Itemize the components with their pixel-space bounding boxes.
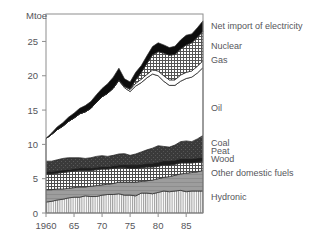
legend-labels: Net import of electricityNuclearGasOilCo… [211,21,303,202]
plot-area [46,14,203,213]
legend-label-other-domestic-fuels: Other domestic fuels [211,168,294,178]
y-tick-label: 25 [27,36,38,47]
legend-label-oil: Oil [211,103,222,113]
x-axis: 19606570758085 [35,213,191,231]
x-tick-label: 75 [125,220,136,231]
y-tick-label: 10 [27,139,38,150]
legend-label-net-import-of-electricity: Net import of electricity [211,21,303,31]
legend-label-wood: Wood [211,154,234,164]
energy-supply-area-chart: 0510152025 19606570758085 Net import of … [0,0,322,250]
x-tick-label: 70 [97,220,108,231]
y-axis: 0510152025 [27,36,46,219]
legend-label-hydronic: Hydronic [211,192,247,202]
legend-label-nuclear: Nuclear [211,41,242,51]
y-axis-unit-label: Mtoe [26,10,47,21]
x-tick-label: 85 [181,220,192,231]
y-tick-label: 0 [33,208,38,219]
x-tick-label: 65 [69,220,80,231]
legend-label-gas: Gas [211,55,228,65]
x-tick-label: 1960 [35,220,56,231]
chart-svg: 0510152025 19606570758085 Net import of … [0,0,322,250]
y-tick-label: 20 [27,70,38,81]
y-tick-label: 5 [33,173,38,184]
y-tick-label: 15 [27,105,38,116]
x-tick-label: 80 [153,220,164,231]
